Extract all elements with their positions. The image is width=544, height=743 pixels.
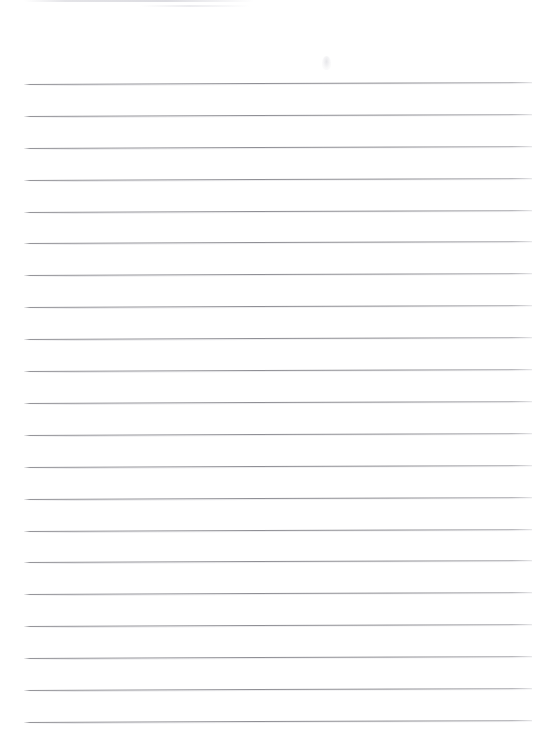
ruled-line [24,210,532,213]
ruled-line [24,592,532,595]
ruled-line [24,178,532,181]
ruled-line [24,82,532,85]
ruled-line [24,497,532,500]
ruled-line [24,114,532,117]
ruled-line [24,560,532,563]
ruled-line [24,465,532,468]
ruled-line [24,241,532,244]
ruled-line [24,305,532,308]
ruled-line [24,656,532,659]
ruled-line [24,688,532,691]
ruled-line [24,273,532,276]
paper-page [0,0,544,743]
ruled-line [24,720,532,723]
ruled-line [24,433,532,436]
ruled-line [24,146,532,149]
ruled-line [24,401,532,404]
ruled-line [24,624,532,627]
ruled-line [24,369,532,372]
ruled-lines-group [0,0,544,743]
ruled-line [24,529,532,532]
ruled-line [24,337,532,340]
